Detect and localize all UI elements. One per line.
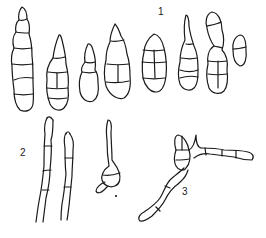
- label-1: 1: [158, 6, 164, 17]
- spore-drawing: [0, 0, 266, 238]
- spore-1d: [105, 24, 131, 99]
- label-2: 2: [20, 147, 26, 158]
- spore-1e: [142, 34, 166, 92]
- spore-1c: [79, 44, 98, 102]
- spore-2b: [61, 132, 73, 220]
- spore-3: [139, 135, 253, 221]
- label-3: 3: [182, 186, 188, 197]
- spore-1a: [11, 7, 33, 111]
- figure: 1 2 3: [0, 0, 266, 238]
- spore-1h: [233, 35, 246, 66]
- spore-2a: [36, 117, 53, 222]
- spore-1g: [206, 12, 227, 93]
- spore-1b: [47, 35, 69, 110]
- spore-2c: [96, 120, 120, 197]
- spore-1f: [179, 15, 199, 90]
